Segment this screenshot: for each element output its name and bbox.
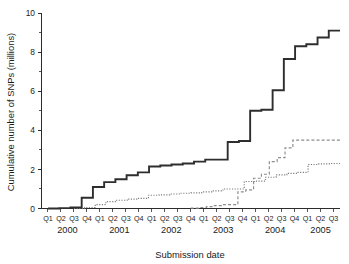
x-quarter-label: Q4 — [238, 214, 248, 223]
x-quarter-label: Q1 — [147, 214, 157, 223]
series-solid — [48, 31, 340, 209]
x-quarter-label: Q2 — [160, 214, 170, 223]
y-tick-label: 0 — [30, 204, 35, 214]
y-tick-label: 10 — [26, 8, 36, 18]
x-axis-ticks — [48, 209, 334, 212]
x-quarter-label: Q1 — [95, 214, 105, 223]
x-quarter-label: Q3 — [277, 214, 287, 223]
x-quarter-label: Q1 — [251, 214, 261, 223]
x-year-label: 2005 — [310, 225, 330, 235]
x-quarter-label: Q2 — [264, 214, 274, 223]
y-tick-label: 6 — [30, 86, 35, 96]
y-tick-label: 2 — [30, 165, 35, 175]
x-year-label: 2000 — [57, 225, 77, 235]
x-quarter-label: Q3 — [121, 214, 131, 223]
y-axis-title: Cumulative number of SNPs (millions) — [5, 33, 16, 191]
x-quarter-label: Q1 — [199, 214, 209, 223]
x-quarter-label: Q2 — [212, 214, 222, 223]
x-axis-quarter-labels: Q1Q2Q3Q4Q1Q2Q3Q4Q1Q2Q3Q4Q1Q2Q3Q4Q1Q2Q3Q4… — [43, 214, 338, 223]
x-axis-title: Submission date — [155, 249, 224, 260]
x-quarter-label: Q4 — [290, 214, 300, 223]
y-axis-ticks — [38, 13, 42, 209]
x-quarter-label: Q4 — [186, 214, 196, 223]
x-quarter-label: Q3 — [225, 214, 235, 223]
series-dashed — [191, 140, 340, 208]
x-quarter-label: Q1 — [43, 214, 53, 223]
x-year-label: 2001 — [109, 225, 129, 235]
x-quarter-label: Q3 — [329, 214, 339, 223]
plot-axes — [42, 13, 341, 209]
series-dotted — [74, 164, 340, 209]
x-quarter-label: Q1 — [303, 214, 313, 223]
x-axis-year-labels: 200020012002200320042005 — [57, 225, 331, 235]
x-quarter-label: Q2 — [316, 214, 326, 223]
x-quarter-label: Q3 — [173, 214, 183, 223]
x-year-label: 2002 — [161, 225, 181, 235]
y-tick-label: 4 — [30, 125, 35, 135]
x-quarter-label: Q4 — [82, 214, 92, 223]
x-quarter-label: Q4 — [134, 214, 144, 223]
x-year-label: 2004 — [265, 225, 285, 235]
y-tick-label: 8 — [30, 47, 35, 57]
x-quarter-label: Q3 — [69, 214, 79, 223]
data-series-layer — [48, 31, 340, 209]
x-year-label: 2003 — [213, 225, 233, 235]
chart-figure: 0246810 Q1Q2Q3Q4Q1Q2Q3Q4Q1Q2Q3Q4Q1Q2Q3Q4… — [0, 0, 349, 264]
x-quarter-label: Q2 — [56, 214, 66, 223]
x-quarter-label: Q2 — [108, 214, 118, 223]
snp-cumulative-step-chart: 0246810 Q1Q2Q3Q4Q1Q2Q3Q4Q1Q2Q3Q4Q1Q2Q3Q4… — [0, 0, 349, 264]
y-axis-tick-labels: 0246810 — [26, 8, 36, 214]
